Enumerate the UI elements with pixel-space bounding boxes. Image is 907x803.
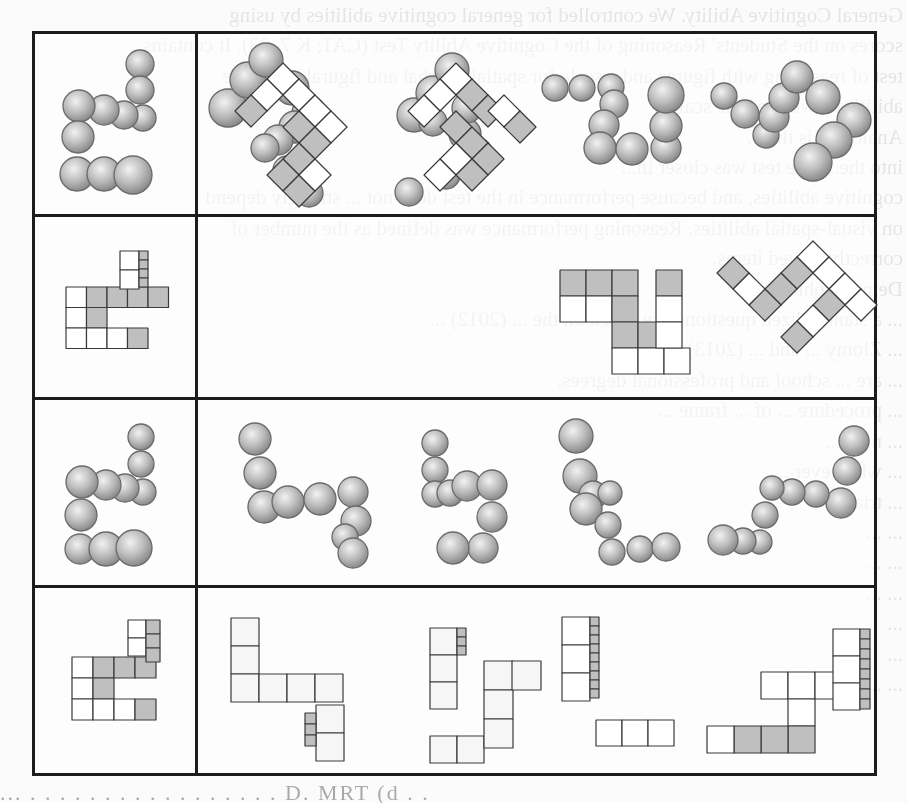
cube-face	[128, 328, 149, 349]
cube-face	[860, 679, 870, 689]
cube-face	[734, 726, 761, 753]
sphere-shape	[304, 483, 336, 515]
cube-face	[612, 322, 638, 348]
sphere-shape	[128, 451, 154, 477]
sphere-shape	[731, 100, 759, 128]
sphere-shape	[477, 470, 507, 500]
sphere-shape	[542, 75, 568, 101]
cube-face	[114, 699, 135, 720]
cube-face	[590, 662, 599, 671]
cube-face	[87, 287, 108, 308]
sphere-shape	[63, 90, 95, 122]
cube-face	[512, 661, 541, 690]
cube-face	[833, 656, 860, 683]
sphere-shape	[128, 424, 154, 450]
figure-artwork	[35, 34, 880, 779]
cube-face	[139, 260, 148, 269]
sphere-shape	[826, 488, 856, 518]
sphere-shape	[239, 423, 271, 455]
sphere-shape	[62, 121, 94, 153]
cube-face	[430, 736, 457, 763]
cube-face	[305, 735, 316, 746]
cube-face	[590, 689, 599, 698]
cube-face	[860, 699, 870, 709]
cube-face	[788, 672, 815, 699]
sphere-shape	[794, 143, 832, 181]
cube-face	[315, 674, 343, 702]
cube-face	[93, 657, 114, 678]
cube-face	[484, 661, 513, 690]
cube-face	[586, 296, 612, 322]
cube-face	[484, 719, 513, 748]
cube-face	[146, 620, 160, 634]
cube-face	[72, 678, 93, 699]
sphere-shape	[652, 533, 680, 561]
cube-face	[562, 617, 590, 645]
cube-face	[664, 348, 690, 374]
cube-face	[287, 674, 315, 702]
cube-face	[146, 634, 160, 648]
cube-face	[860, 639, 870, 649]
sphere-shape	[806, 80, 840, 114]
cube-face	[457, 646, 466, 655]
cube-face	[590, 644, 599, 653]
cube-face	[860, 659, 870, 669]
sphere-shape	[338, 538, 368, 568]
cube-face	[139, 278, 148, 287]
cube-face	[87, 308, 108, 329]
cube-face	[707, 726, 734, 753]
cube-face	[833, 629, 860, 656]
cube-face	[93, 699, 114, 720]
sphere-shape	[422, 430, 448, 456]
cube-face	[612, 270, 638, 296]
sphere-shape	[477, 502, 507, 532]
sphere-shape	[468, 533, 498, 563]
sphere-shape	[559, 419, 593, 453]
sphere-shape	[803, 481, 829, 507]
sphere-shape	[244, 457, 276, 489]
cube-face	[72, 657, 93, 678]
footer-fragment: ... . . . . . . . . . . . . . . . . . D.…	[0, 780, 907, 803]
cube-face	[457, 736, 484, 763]
cube-face	[128, 287, 149, 308]
cube-face	[72, 699, 93, 720]
cube-face	[590, 626, 599, 635]
cube-face	[833, 683, 860, 710]
cube-face	[560, 296, 586, 322]
cube-face	[761, 726, 788, 753]
cube-face	[259, 674, 287, 702]
cube-face	[590, 671, 599, 680]
cube-face	[860, 689, 870, 699]
cube-face	[860, 649, 870, 659]
sphere-shape	[114, 156, 152, 194]
sphere-shape	[569, 75, 595, 101]
cube-face	[560, 270, 586, 296]
cube-face	[562, 645, 590, 673]
cube-face	[66, 328, 87, 349]
sphere-shape	[833, 457, 861, 485]
cube-face	[788, 726, 815, 753]
cube-face	[231, 674, 259, 702]
cube-face	[305, 724, 316, 735]
cube-face	[139, 251, 148, 260]
sphere-shape	[65, 499, 97, 531]
cube-face	[128, 620, 146, 638]
sphere-shape	[126, 50, 154, 78]
cube-face	[638, 348, 664, 374]
cube-face	[146, 648, 160, 662]
sphere-shape	[752, 502, 778, 528]
cube-face	[457, 628, 466, 637]
sphere-shape	[648, 77, 684, 113]
cube-face	[66, 287, 87, 308]
cube-face	[656, 296, 682, 322]
sphere-shape	[126, 76, 154, 104]
sphere-shape	[66, 466, 98, 498]
cube-face	[860, 629, 870, 639]
cube-face	[562, 673, 590, 701]
cube-face	[430, 682, 457, 709]
sphere-shape	[338, 477, 368, 507]
cube-face	[135, 699, 156, 720]
sphere-shape	[395, 178, 423, 206]
sphere-shape	[272, 486, 304, 518]
sphere-shape	[422, 457, 448, 483]
